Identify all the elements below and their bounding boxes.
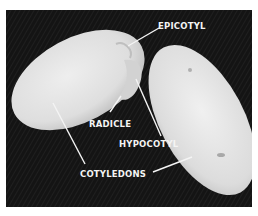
label-radicle: RADICLE xyxy=(89,120,131,129)
label-cotyledons: COTYLEDONS xyxy=(80,170,146,179)
label-hypocotyl: HYPOCOTYL xyxy=(119,140,178,149)
label-epicotyl: EPICOTYL xyxy=(158,22,206,31)
